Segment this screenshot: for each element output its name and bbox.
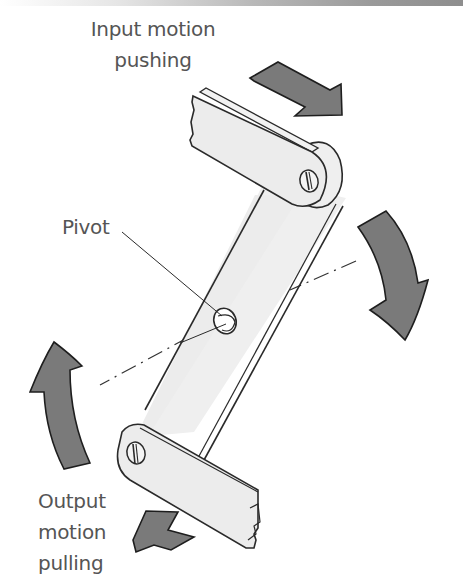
input-label-line1: Input motion <box>88 14 218 45</box>
output-label-line1: Output <box>38 486 106 517</box>
output-label-line2: motion <box>38 517 106 548</box>
output-arrow-icon <box>133 511 194 552</box>
pivot-leader-line <box>122 232 222 316</box>
rotation-arrow-right-icon <box>358 211 428 340</box>
input-arrow-icon <box>250 62 342 116</box>
output-motion-label: Output motion pulling <box>38 486 106 579</box>
lever <box>142 186 346 482</box>
input-motion-label: Input motion pushing <box>88 14 218 76</box>
pivot-label: Pivot <box>62 212 110 243</box>
rotation-arrow-left-icon <box>30 342 90 469</box>
output-label-line3: pulling <box>38 548 106 579</box>
input-label-line2: pushing <box>88 45 218 76</box>
